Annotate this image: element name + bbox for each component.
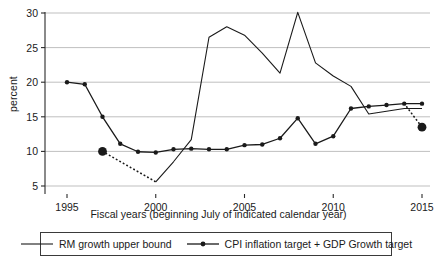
- legend-line-dot-swatch: [186, 239, 220, 249]
- legend-item-label: CPI inflation target + GDP Growth target: [225, 238, 412, 250]
- legend-item-cpi-gdp-target: CPI inflation target + GDP Growth target: [186, 238, 412, 250]
- data-series: [65, 12, 424, 182]
- axis-lines: [45, 12, 430, 194]
- svg-text:20: 20: [26, 76, 38, 88]
- legend-line-swatch: [20, 239, 54, 249]
- legend-item-rm-growth-upper-bound: RM growth upper bound: [20, 238, 172, 250]
- chart-plot-area: 51015202530 19952000200520102015: [0, 0, 437, 264]
- svg-text:2010: 2010: [322, 201, 346, 213]
- y-tick-marks: [41, 13, 45, 186]
- svg-text:25: 25: [26, 42, 38, 54]
- svg-text:2000: 2000: [144, 201, 168, 213]
- chart-legend: RM growth upper bound CPI inflation targ…: [40, 232, 392, 256]
- y-tick-labels: 51015202530: [26, 7, 38, 192]
- x-tick-labels: 19952000200520102015: [55, 201, 434, 213]
- legend-item-label: RM growth upper bound: [59, 238, 172, 250]
- svg-text:2015: 2015: [410, 201, 434, 213]
- svg-text:5: 5: [32, 180, 38, 192]
- svg-text:1995: 1995: [55, 201, 79, 213]
- svg-text:10: 10: [26, 145, 38, 157]
- x-tick-marks: [67, 194, 422, 198]
- svg-text:2005: 2005: [233, 201, 257, 213]
- gridlines: [45, 13, 430, 186]
- svg-text:15: 15: [26, 111, 38, 123]
- chart-figure: percent Fiscal years (beginning July of …: [0, 0, 437, 264]
- svg-text:30: 30: [26, 7, 38, 19]
- emphasis-points: [98, 123, 426, 156]
